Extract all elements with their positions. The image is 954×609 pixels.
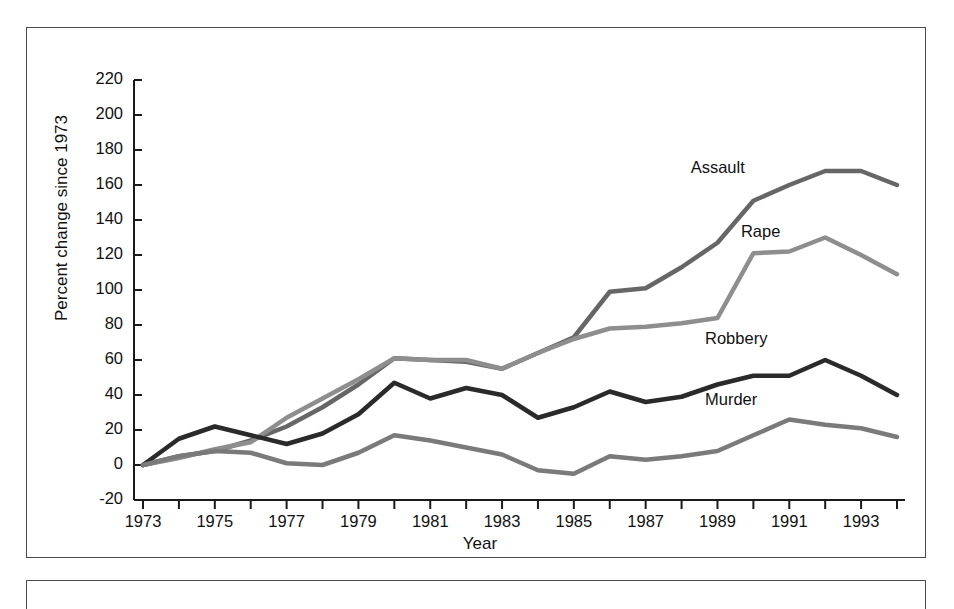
y-tick-label: 60 [67,349,123,368]
y-tick-label: 200 [67,104,123,123]
x-tick-label: 1977 [252,512,322,531]
y-tick-label: 80 [67,314,123,333]
y-tick-label: 40 [67,384,123,403]
series-label-rape: Rape [741,222,780,241]
series-label-robbery: Robbery [705,329,767,348]
y-tick-label: 100 [67,279,123,298]
series-line-murder [143,420,897,474]
y-tick-label: 160 [67,174,123,193]
y-tick-label: 120 [67,244,123,263]
x-tick-label: 1989 [682,512,752,531]
series-line-robbery [143,360,897,465]
chart-figure: Percent change since 1973 Year -20020406… [0,0,954,609]
x-tick-label: 1979 [323,512,393,531]
x-tick-label: 1973 [108,512,178,531]
x-tick-label: 1975 [180,512,250,531]
series-label-murder: Murder [705,390,757,409]
y-tick-label: 220 [67,69,123,88]
x-tick-label: 1991 [754,512,824,531]
x-tick-label: 1981 [395,512,465,531]
y-tick-label: 0 [67,454,123,473]
y-tick-label: -20 [67,489,123,508]
y-tick-label: 180 [67,139,123,158]
x-tick-label: 1993 [826,512,896,531]
x-tick-label: 1983 [467,512,537,531]
x-tick-label: 1985 [539,512,609,531]
y-tick-label: 140 [67,209,123,228]
series-line-rape [143,238,897,466]
y-tick-label: 20 [67,419,123,438]
series-label-assault: Assault [691,158,745,177]
x-tick-label: 1987 [611,512,681,531]
x-axis-label: Year [330,534,630,554]
